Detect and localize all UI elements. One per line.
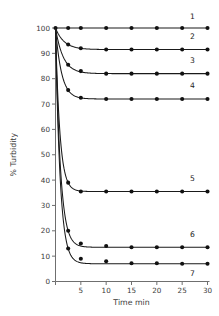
series-marker-5 [79,189,83,193]
series-marker-7 [180,262,184,266]
series-marker-7 [79,257,83,261]
series-line-7 [56,28,208,264]
series-marker-5 [155,189,159,193]
series-marker-6 [66,229,70,233]
y-tick-label-40: 40 [41,176,51,185]
y-tick-label-90: 90 [41,49,51,58]
x-tick-label-20: 20 [152,286,162,295]
chart-canvas: 010203040506070809010051015202530Time mi… [0,0,219,316]
series-marker-2 [104,48,108,52]
series-marker-3 [66,63,70,67]
series-marker-6 [180,245,184,249]
y-tick-label-100: 100 [36,24,50,33]
series-line-4 [56,28,208,99]
series-marker-5 [180,189,184,193]
series-label-1: 1 [190,12,195,21]
series-label-5: 5 [190,174,195,183]
series-marker-6 [79,241,83,245]
y-tick-label-30: 30 [41,201,51,210]
series-marker-3 [155,72,159,76]
series-label-3: 3 [190,56,195,65]
series-label-7: 7 [190,269,195,278]
series-marker-5 [66,181,70,185]
series-marker-1 [129,26,133,30]
series-line-6 [56,28,208,247]
turbidity-decay-chart: 010203040506070809010051015202530Time mi… [0,0,219,316]
y-tick-label-20: 20 [41,226,51,235]
x-tick-label-10: 10 [102,286,112,295]
series-marker-4 [104,97,108,101]
series-marker-4 [66,88,70,92]
series-marker-5 [104,189,108,193]
series-marker-5 [205,189,209,193]
series-marker-3 [129,72,133,76]
series-marker-3 [79,69,83,73]
x-tick-label-5: 5 [79,286,84,295]
series-marker-3 [104,72,108,76]
series-marker-6 [205,245,209,249]
y-tick-label-10: 10 [41,252,51,261]
series-marker-3 [180,72,184,76]
series-marker-4 [155,97,159,101]
y-axis-title: % Turbidity [9,133,18,177]
x-tick-label-30: 30 [203,286,213,295]
series-marker-2 [66,42,70,46]
y-tick-label-70: 70 [41,100,51,109]
series-marker-7 [155,261,159,265]
series-marker-1 [66,26,70,30]
series-marker-1 [205,26,209,30]
series-marker-4 [205,97,209,101]
series-marker-7 [205,262,209,266]
series-label-4: 4 [190,81,195,90]
series-marker-4 [79,96,83,100]
series-marker-2 [180,48,184,52]
series-marker-6 [129,245,133,249]
series-marker-2 [79,46,83,50]
series-label-2: 2 [190,32,195,41]
series-marker-7 [129,261,133,265]
series-marker-1 [180,26,184,30]
y-tick-label-0: 0 [45,277,50,286]
series-line-5 [56,28,208,192]
series-marker-4 [129,97,133,101]
series-marker-2 [205,48,209,52]
x-axis-title: Time min [112,298,149,307]
series-marker-6 [104,244,108,248]
series-marker-7 [66,247,70,251]
y-tick-label-50: 50 [41,150,51,159]
series-label-6: 6 [190,230,195,239]
series-marker-1 [155,26,159,30]
x-tick-label-15: 15 [127,286,136,295]
x-tick-label-25: 25 [178,286,187,295]
series-marker-5 [129,189,133,193]
series-marker-1 [79,26,83,30]
series-marker-4 [180,97,184,101]
series-marker-7 [104,259,108,263]
series-marker-2 [155,48,159,52]
y-tick-label-80: 80 [41,74,51,83]
y-tick-label-60: 60 [41,125,51,134]
series-marker-3 [205,72,209,76]
series-marker-2 [129,48,133,52]
series-marker-6 [155,245,159,249]
series-line-2 [56,28,208,50]
series-marker-1 [104,26,108,30]
